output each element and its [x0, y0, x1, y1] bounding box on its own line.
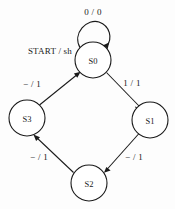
state-label-s2: S2: [85, 179, 94, 189]
transition-s3-to-s0: [40, 72, 81, 105]
state-label-s1: S1: [146, 116, 155, 126]
arrowhead-s1-s2: [104, 167, 111, 173]
edge-label-s3-s0: − / 1: [23, 79, 41, 89]
edge-line-s3-s0: [40, 74, 79, 106]
state-label-s3: S3: [23, 114, 32, 124]
start-label: START / sh: [28, 46, 72, 56]
state-label-s0: S0: [89, 56, 98, 66]
edge-label-s0-self: 0 / 0: [84, 7, 102, 17]
state-node-s2[interactable]: S2: [71, 165, 107, 201]
edge-label-s0-s1: 1 / 1: [123, 78, 141, 88]
fsm-canvas: S0 S1 S2 S3 START / sh 0 / 0 1 / 1 − / 1…: [0, 0, 175, 209]
state-node-s0[interactable]: S0: [75, 42, 111, 78]
edge-label-s1-s2: − / 1: [125, 152, 143, 162]
state-node-s3[interactable]: S3: [9, 100, 45, 136]
edge-label-s2-s3: − / 1: [30, 152, 48, 162]
state-machine-diagram: S0 S1 S2 S3 START / sh 0 / 0 1 / 1 − / 1…: [0, 0, 175, 209]
state-node-s1[interactable]: S1: [132, 102, 168, 138]
